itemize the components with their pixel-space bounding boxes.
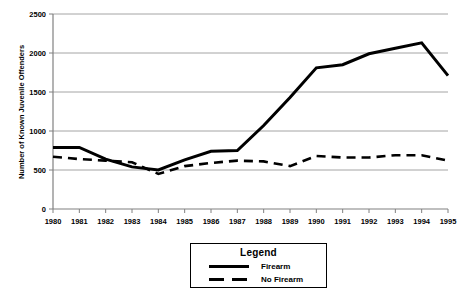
- x-tick-label: 1987: [229, 217, 246, 226]
- x-tick-label: 1994: [413, 217, 431, 226]
- legend-title: Legend: [191, 247, 326, 258]
- x-tick-label: 1981: [71, 217, 88, 226]
- x-tick-label: 1992: [361, 217, 378, 226]
- x-tick-label: 1983: [124, 217, 141, 226]
- series-line-no-firearm: [53, 155, 448, 174]
- y-tick-label: 2000: [29, 49, 46, 58]
- y-tick-label: 2500: [29, 10, 46, 19]
- legend-item-firearm: Firearm: [191, 261, 326, 271]
- x-tick-label: 1993: [387, 217, 404, 226]
- y-tick-label: 1000: [29, 127, 46, 136]
- legend-label-no-firearm: No Firearm: [261, 275, 303, 284]
- x-tick-label: 1982: [97, 217, 114, 226]
- legend-label-firearm: Firearm: [261, 262, 290, 271]
- series-line-firearm: [53, 43, 448, 170]
- gridlines: [53, 14, 448, 170]
- legend-item-no-firearm: No Firearm: [191, 274, 326, 284]
- x-tick-label: 1995: [440, 217, 457, 226]
- chart-container: Number of Known Juvenile Offenders 05001…: [0, 0, 473, 294]
- y-tick-label: 500: [33, 166, 46, 175]
- data-series-layer: [53, 43, 448, 174]
- y-axis-ticks: 05001000150020002500: [29, 10, 53, 214]
- x-tick-label: 1988: [255, 217, 272, 226]
- y-axis-title: Number of Known Juvenile Offenders: [17, 45, 26, 179]
- x-tick-label: 1986: [203, 217, 220, 226]
- x-tick-label: 1991: [334, 217, 351, 226]
- x-tick-label: 1989: [282, 217, 299, 226]
- legend: Legend Firearm No Firearm: [190, 243, 327, 288]
- y-axis-title-group: Number of Known Juvenile Offenders: [17, 45, 26, 179]
- y-tick-label: 0: [42, 205, 46, 214]
- x-tick-label: 1985: [176, 217, 193, 226]
- x-tick-label: 1990: [308, 217, 325, 226]
- x-tick-label: 1980: [45, 217, 62, 226]
- x-axis-ticks: 1980198119821983198419851986198719881989…: [45, 209, 457, 226]
- y-tick-label: 1500: [29, 88, 46, 97]
- legend-swatch-solid-icon: [207, 261, 251, 271]
- legend-swatch-dashed-icon: [207, 274, 251, 284]
- x-tick-label: 1984: [150, 217, 168, 226]
